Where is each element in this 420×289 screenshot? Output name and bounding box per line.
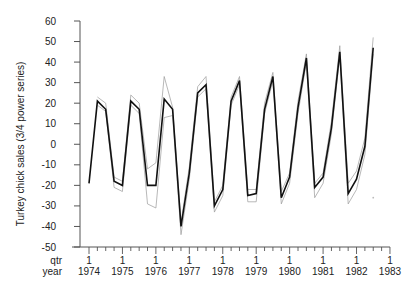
y-tick-label: 10	[45, 118, 57, 129]
y-tick-label: 50	[45, 36, 57, 47]
x-tick-qtr-label: 1	[253, 255, 259, 266]
x-tick-qtr-label: 1	[153, 255, 159, 266]
stray-point	[372, 197, 374, 199]
x-tick-qtr-label: 1	[86, 255, 92, 266]
x-tick-year-label: 1974	[78, 266, 101, 277]
y-tick-label: 0	[50, 139, 56, 150]
series-line	[89, 48, 373, 227]
x-tick-year-label: 1981	[312, 266, 335, 277]
y-tick-label: 20	[45, 98, 57, 109]
y-tick-label: -20	[42, 180, 57, 191]
y-tick-label: -50	[42, 242, 57, 253]
x-tick-year-label: 1983	[379, 266, 402, 277]
x-tick-year-label: 1982	[345, 266, 368, 277]
y-tick-label: 40	[45, 57, 57, 68]
x-tick-qtr-label: 1	[320, 255, 326, 266]
series-line	[97, 54, 373, 235]
x-tick-qtr-label: 1	[287, 255, 293, 266]
x-tick-qtr-label: 1	[187, 255, 193, 266]
y-tick-label: 30	[45, 77, 57, 88]
y-tick-label: 60	[45, 16, 57, 27]
y-axis-title: Turkey chick sales (3/4 power series)	[15, 62, 26, 227]
x-tick-year-label: 1975	[111, 266, 134, 277]
x-tick-year-label: 1979	[245, 266, 268, 277]
x-tick-qtr-label: 1	[354, 255, 360, 266]
x-tick-qtr-label: 1	[120, 255, 126, 266]
x-axis: 1197411975119761197711978119791198011981…	[72, 247, 402, 277]
x-tick-qtr-label: 1	[220, 255, 226, 266]
line-chart: 6050403020100-10-20-30-40-50 11974119751…	[0, 0, 420, 289]
x-row-label-qtr: qtr	[50, 255, 62, 266]
x-tick-year-label: 1980	[279, 266, 302, 277]
y-axis: 6050403020100-10-20-30-40-50	[42, 16, 80, 253]
y-tick-label: -40	[42, 221, 57, 232]
y-tick-label: -10	[42, 159, 57, 170]
x-tick-year-label: 1978	[212, 266, 235, 277]
x-tick-qtr-label: 1	[387, 255, 393, 266]
x-tick-year-label: 1977	[178, 266, 201, 277]
x-tick-year-label: 1976	[145, 266, 168, 277]
x-row-label-year: year	[43, 266, 63, 277]
series-layer	[89, 37, 374, 234]
y-tick-label: -30	[42, 200, 57, 211]
